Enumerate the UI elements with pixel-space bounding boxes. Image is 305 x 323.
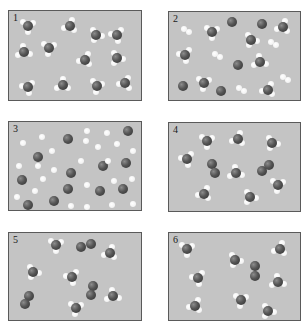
hydrogen-atom <box>84 182 90 188</box>
nitrogen-atom <box>51 240 61 250</box>
nitrogen-atom <box>123 126 133 136</box>
hydrogen-atom <box>130 201 136 207</box>
hydrogen-atom <box>78 158 84 164</box>
nitrogen-atom <box>264 160 274 170</box>
nitrogen-atom <box>207 27 217 37</box>
nitrogen-atom <box>58 80 68 90</box>
nitrogen-atom <box>118 184 128 194</box>
hydrogen-atom <box>84 128 90 134</box>
nitrogen-atom <box>180 50 190 60</box>
nitrogen-atom <box>17 175 27 185</box>
nitrogen-atom <box>33 152 43 162</box>
hydrogen-atom <box>83 138 89 144</box>
nitrogen-atom <box>108 291 118 301</box>
panel-label: 6 <box>173 234 178 245</box>
nitrogen-atom <box>112 53 122 63</box>
nitrogen-atom <box>95 186 105 196</box>
nitrogen-atom <box>28 267 38 277</box>
hydrogen-atom <box>51 167 57 173</box>
nitrogen-atom <box>202 136 212 146</box>
nitrogen-atom <box>91 30 101 40</box>
hydrogen-atom <box>39 134 45 140</box>
nitrogen-atom <box>227 17 237 27</box>
hydrogen-atom <box>14 194 20 200</box>
nitrogen-atom <box>199 78 209 88</box>
nitrogen-atom <box>273 180 283 190</box>
nitrogen-atom <box>231 168 241 178</box>
hydrogen-atom <box>49 148 55 154</box>
panel-label: 3 <box>13 123 18 134</box>
nitrogen-atom <box>120 78 130 88</box>
nitrogen-atom <box>20 299 30 309</box>
hydrogen-atom <box>285 77 291 83</box>
nitrogen-atom <box>190 301 200 311</box>
nitrogen-atom <box>216 86 226 96</box>
nitrogen-atom <box>65 21 75 31</box>
nitrogen-atom <box>23 82 33 92</box>
nitrogen-atom <box>250 271 260 281</box>
nitrogen-atom <box>193 273 203 283</box>
nitrogen-atom <box>275 244 285 254</box>
hydrogen-atom <box>241 88 247 94</box>
hydrogen-atom <box>217 54 223 60</box>
nitrogen-atom <box>121 158 131 168</box>
nitrogen-atom <box>199 189 209 199</box>
nitrogen-atom <box>182 154 192 164</box>
panel-label: 4 <box>173 124 178 135</box>
nitrogen-atom <box>92 81 102 91</box>
nitrogen-atom <box>182 244 192 254</box>
hydrogen-atom <box>16 163 22 169</box>
hydrogen-atom <box>109 202 115 208</box>
nitrogen-atom <box>86 239 96 249</box>
nitrogen-atom <box>80 55 90 65</box>
hydrogen-atom <box>130 148 136 154</box>
hydrogen-atom <box>186 29 192 35</box>
nitrogen-atom <box>66 168 76 178</box>
nitrogen-atom <box>267 138 277 148</box>
hydrogen-atom <box>105 158 111 164</box>
hydrogen-atom <box>273 42 279 48</box>
nitrogen-atom <box>263 85 273 95</box>
panel-label: 1 <box>13 12 18 23</box>
nitrogen-atom <box>49 196 59 206</box>
nitrogen-atom <box>263 306 273 316</box>
nitrogen-atom <box>44 43 54 53</box>
hydrogen-atom <box>129 176 135 182</box>
hydrogen-atom <box>32 188 38 194</box>
hydrogen-atom <box>104 130 110 136</box>
nitrogen-atom <box>246 35 256 45</box>
nitrogen-atom <box>67 272 77 282</box>
nitrogen-atom <box>63 134 73 144</box>
nitrogen-atom <box>105 248 115 258</box>
nitrogen-atom <box>245 192 255 202</box>
nitrogen-atom <box>71 303 81 313</box>
nitrogen-atom <box>23 200 33 210</box>
nitrogen-atom <box>86 290 96 300</box>
nitrogen-atom <box>233 134 243 144</box>
panel-label: 5 <box>13 234 18 245</box>
nitrogen-atom <box>233 60 243 70</box>
hydrogen-atom <box>114 141 120 147</box>
hydrogen-atom <box>20 140 26 146</box>
panel-label: 2 <box>173 13 178 24</box>
nitrogen-atom <box>257 19 267 29</box>
hydrogen-atom <box>95 144 101 150</box>
hydrogen-atom <box>40 176 46 182</box>
nitrogen-atom <box>23 21 33 31</box>
hydrogen-atom <box>68 203 74 209</box>
nitrogen-atom <box>236 295 246 305</box>
nitrogen-atom <box>230 255 240 265</box>
nitrogen-atom <box>250 261 260 271</box>
nitrogen-atom <box>19 47 29 57</box>
hydrogen-atom <box>35 163 41 169</box>
nitrogen-atom <box>112 30 122 40</box>
nitrogen-atom <box>278 22 288 32</box>
nitrogen-atom <box>210 168 220 178</box>
nitrogen-atom <box>273 277 283 287</box>
nitrogen-atom <box>255 57 265 67</box>
hydrogen-atom <box>111 178 117 184</box>
nitrogen-atom <box>63 184 73 194</box>
nitrogen-atom <box>178 81 188 91</box>
nitrogen-atom <box>76 242 86 252</box>
hydrogen-atom <box>84 204 90 210</box>
